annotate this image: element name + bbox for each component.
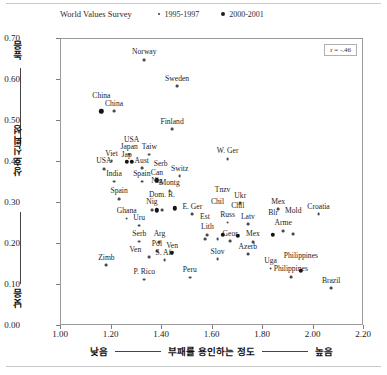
x-axis-rule-left (115, 351, 161, 352)
point-label: Switz (171, 165, 188, 173)
point-label: Blr (268, 209, 278, 217)
point-label: Est (200, 213, 210, 221)
data-point (138, 224, 141, 227)
y-axis-tick-label: 0.30 (0, 197, 20, 207)
point-label: Arg (154, 231, 166, 239)
point-label: Dom. R. (149, 191, 175, 199)
y-axis-tick-label: 0.70 (0, 33, 20, 43)
point-label: Mex (246, 231, 260, 239)
legend-label: 2000-2001 (229, 10, 264, 19)
x-axis-tick-label: 1.20 (91, 329, 131, 339)
data-point (129, 160, 133, 164)
x-axis-tick-label: 1.40 (141, 329, 181, 339)
data-point (289, 275, 292, 278)
point-label: Russ (220, 211, 235, 219)
point-label: Aust (135, 157, 149, 165)
x-axis-tick-mark (212, 325, 213, 329)
data-point (161, 209, 164, 212)
y-axis-tick-mark (56, 202, 60, 203)
data-point (178, 175, 181, 178)
data-point (103, 168, 106, 171)
data-point (226, 221, 229, 224)
data-point (292, 232, 295, 235)
y-axis-high-label: 높음 (12, 40, 26, 60)
data-point (105, 264, 108, 267)
data-point (282, 229, 285, 232)
data-point (143, 278, 146, 281)
point-label: Pol (152, 240, 162, 248)
x-axis-tick-label: 1.80 (242, 329, 282, 339)
point-label: Brazil (322, 277, 341, 285)
data-point (226, 157, 229, 160)
data-point (176, 85, 179, 88)
chart-header: World Values Survey 1995-1997 2000-2001 (60, 7, 363, 21)
data-point (188, 276, 191, 279)
legend-label: 1995-1997 (164, 10, 199, 19)
x-axis-tick-mark (262, 325, 263, 329)
y-axis-tick-mark (56, 243, 60, 244)
y-axis-tick-label: 0.50 (0, 115, 20, 125)
point-label: Spain (110, 188, 127, 196)
point-label: W. Ger (217, 147, 239, 155)
data-point (118, 197, 121, 200)
y-axis-tick-mark (56, 120, 60, 121)
point-label: Serb (154, 160, 168, 168)
top-divider (6, 3, 381, 4)
data-point (113, 180, 116, 183)
point-label: Arme (275, 220, 292, 228)
data-point (172, 206, 176, 210)
y-axis-tick-mark (56, 38, 60, 39)
point-label: Serb (132, 230, 146, 238)
x-axis-high-label: 높음 (315, 344, 333, 358)
point-label: Latv (241, 213, 255, 221)
point-label: Nig (146, 199, 157, 207)
scatter-plot-figure: World Values Survey 1995-1997 2000-2001 … (0, 0, 387, 375)
legend-item-1995-1997: 1995-1997 (158, 10, 199, 19)
data-point (246, 253, 249, 256)
x-axis-low-label: 낮음 (90, 344, 108, 358)
data-point (143, 59, 146, 62)
point-label: Mex (271, 198, 285, 206)
y-axis-tick-label: 0.40 (0, 156, 20, 166)
point-label: Taiw (142, 143, 157, 151)
legend: 1995-1997 2000-2001 (158, 10, 264, 19)
data-point (206, 234, 209, 237)
legend-item-2000-2001: 2000-2001 (221, 10, 264, 19)
data-point (148, 256, 151, 259)
point-label: Lith (201, 224, 214, 232)
point-label: Norway (132, 49, 156, 57)
y-axis-rule-bottom (20, 212, 21, 284)
data-point (155, 208, 159, 212)
y-axis-tick-mark (56, 284, 60, 285)
point-label: India (106, 170, 122, 178)
point-label: E. Ger (182, 203, 202, 211)
point-label: Philippines (274, 266, 308, 274)
point-label: Chil (211, 198, 224, 206)
x-axis-tick-label: 1.60 (192, 329, 232, 339)
x-axis-tick-label: 2.20 (343, 329, 383, 339)
y-axis-tick-mark (56, 79, 60, 80)
point-label: Spain (133, 170, 150, 178)
data-point (138, 240, 141, 243)
point-label: China (92, 92, 110, 100)
large-dot-icon (221, 12, 225, 16)
data-point (150, 209, 153, 212)
point-label: Slov (211, 248, 225, 256)
point-label: Chil (231, 202, 244, 210)
point-label: Jap (122, 151, 132, 159)
point-label: Peru (183, 266, 197, 274)
point-label: USA (96, 158, 111, 166)
data-point (171, 128, 174, 131)
point-label: Uru (133, 214, 145, 222)
correlation-annotation: r = -.46 (324, 44, 357, 56)
point-label: Zimb (98, 254, 114, 262)
point-label: Ven (129, 246, 141, 254)
point-label: S. Afr (155, 249, 173, 257)
y-axis-tick-label: 0.00 (0, 320, 20, 330)
data-point (124, 160, 128, 164)
y-axis-tick-label: 0.10 (0, 279, 20, 289)
data-point (113, 110, 116, 113)
x-axis-tick-mark (60, 325, 61, 329)
point-label: Mold (285, 208, 301, 216)
point-label: Azerb (239, 243, 258, 251)
